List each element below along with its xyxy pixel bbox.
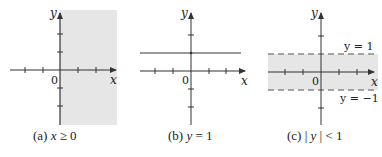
y-axis-label: y [49, 6, 57, 20]
caption-var: y [311, 128, 317, 143]
caption-rest: < 1 [322, 128, 342, 143]
y-axis-label: y [180, 6, 188, 20]
y-axis-label: y [310, 6, 318, 20]
caption-b: (b) y = 1 [168, 128, 213, 144]
caption-prefix: (b) [168, 128, 183, 143]
upper-boundary-label: y = 1 [343, 40, 373, 53]
lower-boundary-label: y = −1 [339, 92, 379, 105]
caption-prefix: (a) [33, 128, 47, 143]
caption-rest: = 1 [192, 128, 212, 143]
origin-label: 0 [312, 75, 319, 88]
caption-prefix: (c) [287, 128, 301, 143]
caption-a: (a) x ≥ 0 [33, 128, 77, 144]
caption-c: (c) | y | < 1 [287, 128, 343, 144]
x-axis-label: x [110, 73, 117, 87]
origin-label: 0 [51, 74, 58, 87]
x-axis-label: x [371, 75, 378, 89]
x-axis-label: x [241, 74, 248, 88]
panel-c: y x 0 y = 1 y = −1 [268, 6, 379, 125]
panel-b: y x 0 [140, 6, 248, 125]
abs-bar-left: | [305, 128, 308, 143]
caption-rest: ≥ 0 [56, 128, 76, 143]
panel-a: y x 0 [10, 6, 117, 125]
intercept-point [190, 52, 193, 55]
origin-label: 0 [182, 74, 189, 87]
shaded-region-x-nonneg [60, 10, 117, 125]
